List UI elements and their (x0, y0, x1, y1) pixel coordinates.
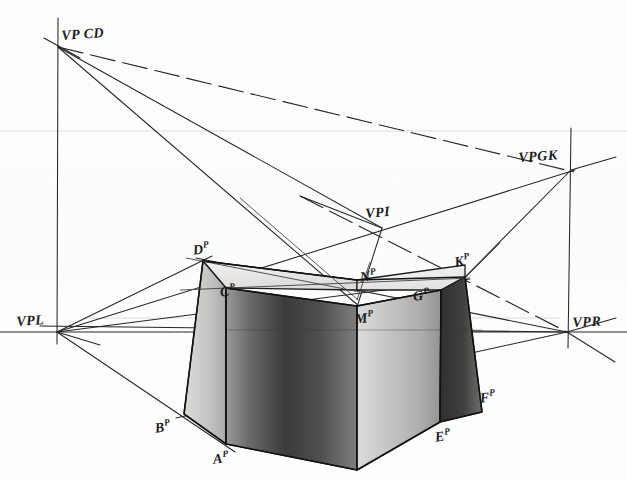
dashed-vpcd-to-vpgk (58, 47, 574, 172)
point-superscript: P (222, 448, 229, 459)
point-label-ep: EP (434, 426, 452, 445)
point-superscript: P (423, 285, 430, 296)
point-label-mp: MP (354, 308, 375, 328)
point-superscript: P (163, 417, 170, 428)
point-superscript: P (489, 387, 496, 398)
vertical-trace-left (57, 18, 58, 344)
point-superscript: P (444, 426, 451, 437)
vp-label-vpr: VPR (572, 314, 602, 331)
face-gable-right (440, 277, 482, 422)
point-superscript: P (202, 239, 209, 250)
vp-label-vpgk: VPGK (518, 147, 558, 166)
drawing-sheet: VP CD VPL VPR VPI VPGK AP BP CP DP EP FP… (0, 0, 627, 480)
point-superscript: P (367, 308, 374, 319)
vp-label-vpcd: VP CD (61, 25, 105, 44)
vp-label-vpl: VPL (16, 312, 45, 330)
point-superscript: P (229, 281, 236, 292)
edge-vertical-gp (440, 290, 441, 422)
point-label-ap: AP (212, 448, 230, 467)
point-label-gp: GP (412, 285, 431, 304)
line-vpl-to-dp (57, 256, 212, 332)
point-label-fp: FP (479, 387, 497, 406)
point-label-bp: BP (154, 417, 172, 437)
point-label-np: NP (359, 266, 378, 286)
line-vpgk-to-kp (464, 170, 571, 278)
point-superscript: P (369, 266, 376, 277)
point-label-kp: KP (453, 250, 472, 270)
perspective-diagram (0, 0, 627, 480)
face-front-dark (226, 288, 357, 470)
line-vpgk-right-extend (571, 157, 616, 170)
line-vpr-lower-right (567, 332, 615, 362)
vp-label-vpi: VPI (365, 204, 391, 222)
point-label-cp: CP (219, 281, 237, 300)
line-vpi-to-vpcd (58, 47, 382, 228)
line-vpl-right-extend (57, 332, 100, 345)
point-label-dp: DP (192, 239, 211, 259)
vertical-trace-right (568, 128, 571, 348)
